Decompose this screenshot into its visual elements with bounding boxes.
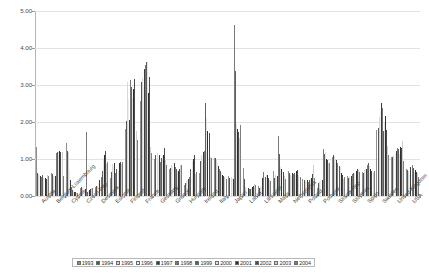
legend-item[interactable]: 2002 (255, 260, 272, 266)
swatch-2003-icon (274, 261, 278, 265)
swatch-1998-icon (175, 261, 179, 265)
swatch-1995-icon (116, 261, 120, 265)
bar-group (124, 11, 139, 196)
bar-group (257, 11, 272, 196)
swatch-1996-icon (136, 261, 140, 265)
bar-group (213, 11, 228, 196)
bar-group (168, 11, 183, 196)
bar-group (35, 11, 50, 196)
legend-label: 2000 (220, 260, 232, 266)
chart-title (0, 0, 429, 8)
swatch-1999-icon (195, 261, 199, 265)
bar (86, 132, 87, 196)
swatch-1994-icon (96, 261, 100, 265)
bar-chart: 0.001.002.003.004.005.00 AustriaBelgium-… (0, 0, 429, 279)
bar-group (331, 11, 346, 196)
bar-group (242, 11, 257, 196)
bar (137, 140, 138, 196)
legend-label: 1998 (181, 260, 193, 266)
legend-label: 1996 (141, 260, 153, 266)
swatch-1993-icon (77, 261, 81, 265)
bar-group (272, 11, 287, 196)
legend-label: 1993 (82, 260, 94, 266)
bar-group (65, 11, 80, 196)
legend-label: 1995 (121, 260, 133, 266)
bar (151, 153, 152, 196)
bar-group (139, 11, 154, 196)
y-tick-label: 4.00 (6, 45, 32, 51)
legend-label: 2004 (299, 260, 311, 266)
bar-group (198, 11, 213, 196)
legend-item[interactable]: 1996 (136, 260, 153, 266)
legend-label: 1999 (200, 260, 212, 266)
bar-group (316, 11, 331, 196)
bar-group (287, 11, 302, 196)
legend-item[interactable]: 1993 (77, 260, 94, 266)
bar-group (346, 11, 361, 196)
legend-item[interactable]: 1994 (96, 260, 113, 266)
swatch-1997-icon (156, 261, 160, 265)
legend-item[interactable]: 1998 (175, 260, 192, 266)
bar-group (361, 11, 376, 196)
y-tick-label: 1.00 (6, 156, 32, 162)
legend-item[interactable]: 1999 (195, 260, 212, 266)
bar-group (405, 11, 420, 196)
legend-item[interactable]: 2004 (294, 260, 311, 266)
y-tick-label: 2.00 (6, 119, 32, 125)
bar-group (390, 11, 405, 196)
swatch-2000-icon (215, 261, 219, 265)
swatch-2004-icon (294, 261, 298, 265)
x-axis-labels: AustriaBelgium-LuxembourgCyprusCzech Rep… (0, 197, 429, 252)
bar (240, 125, 241, 196)
legend-item[interactable]: 1997 (156, 260, 173, 266)
bar-group (183, 11, 198, 196)
y-tick-label: 5.00 (6, 8, 32, 14)
legend-item[interactable]: 2003 (274, 260, 291, 266)
legend-item[interactable]: 2001 (235, 260, 252, 266)
bar-group (153, 11, 168, 196)
bar-group (302, 11, 317, 196)
chart-legend: 1993199419951996199719981999200020012002… (72, 258, 315, 267)
legend-label: 2001 (240, 260, 252, 266)
y-tick-label: 3.00 (6, 82, 32, 88)
bar-group (50, 11, 65, 196)
legend-label: 1997 (161, 260, 173, 266)
legend-item[interactable]: 1995 (116, 260, 133, 266)
legend-label: 2002 (260, 260, 272, 266)
bar-group (228, 11, 243, 196)
bar-group (109, 11, 124, 196)
bar-group (376, 11, 391, 196)
legend-item[interactable]: 2000 (215, 260, 232, 266)
bar-group (94, 11, 109, 196)
legend-label: 1994 (101, 260, 113, 266)
swatch-2001-icon (235, 261, 239, 265)
legend-label: 2003 (280, 260, 292, 266)
swatch-2002-icon (255, 261, 259, 265)
